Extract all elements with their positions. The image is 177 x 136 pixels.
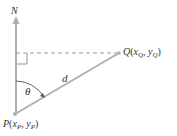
bearing-diagram — [0, 0, 177, 136]
north-arrow-icon — [13, 16, 20, 24]
point-p-label: P(xP, yP) — [3, 119, 38, 131]
distance-label: d — [62, 73, 68, 84]
north-label: N — [11, 6, 18, 16]
point-q-label: Q(xQ, yQ) — [123, 47, 161, 59]
right-angle-marker — [17, 53, 27, 64]
point-q-close: ) — [158, 46, 161, 57]
point-p-dot — [13, 112, 17, 116]
point-q-dot — [117, 51, 121, 55]
point-p-close: ) — [35, 118, 38, 129]
angle-label: θ — [25, 86, 30, 97]
